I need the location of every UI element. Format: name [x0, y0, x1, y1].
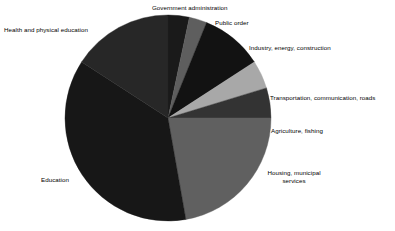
pie-label-housing-line1: Housing, municipal	[259, 169, 329, 177]
pie-label-housing-line2: services	[259, 177, 329, 185]
pie-label-health: Health and physical education	[4, 26, 88, 34]
pie-label-transportation-text: Transportation, communication, roads	[270, 94, 375, 102]
pie-chart-canvas	[0, 0, 395, 231]
pie-label-public-order: Public order	[215, 19, 249, 27]
pie-label-industry-text: Industry, energy, construction	[249, 44, 331, 52]
pie-label-government-administration-text: Government administration	[152, 4, 228, 12]
pie-chart: Government administration Public order I…	[0, 0, 395, 231]
pie-label-transportation: Transportation, communication, roads	[270, 94, 375, 102]
pie-label-agriculture: Agriculture, fishing	[271, 127, 323, 135]
pie-label-public-order-text: Public order	[215, 19, 249, 27]
pie-label-housing: Housing, municipal services	[259, 169, 329, 185]
pie-label-industry: Industry, energy, construction	[249, 44, 331, 52]
pie-slice	[168, 118, 271, 219]
pie-label-education: Education	[41, 176, 69, 184]
pie-slices-group	[65, 15, 271, 221]
pie-label-government-administration: Government administration	[152, 4, 228, 12]
pie-label-education-text: Education	[41, 176, 69, 184]
pie-label-health-text: Health and physical education	[4, 26, 88, 34]
pie-label-agriculture-text: Agriculture, fishing	[271, 127, 323, 135]
